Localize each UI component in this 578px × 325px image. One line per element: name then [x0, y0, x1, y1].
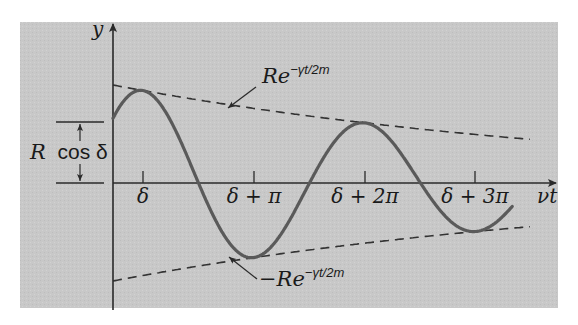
tick-label-delta-plus-2pi: δ + 2π: [331, 184, 399, 208]
tick-label-delta-plus-pi: δ + π: [227, 184, 283, 208]
x-axis-label: νt: [537, 184, 558, 208]
tick-label-delta-plus-3pi: δ + 3π: [441, 184, 509, 208]
r-cos-delta-label-r: R: [29, 140, 46, 164]
svg-text:R cos δ: R cos δ: [29, 140, 108, 164]
damped-oscillation-figure: R cos δ y νt δ δ + π δ + 2π δ + 3π Re−γt…: [0, 0, 578, 325]
r-cos-delta-label-rest: cos δ: [58, 140, 108, 163]
tick-label-delta: δ: [137, 184, 149, 208]
y-axis-label: y: [91, 17, 104, 41]
